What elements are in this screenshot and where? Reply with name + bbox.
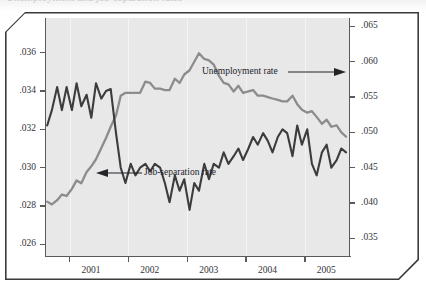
axis-left-label-.026: .026 <box>8 238 36 248</box>
gridline-2004 <box>246 18 247 256</box>
tick-right-.055 <box>349 96 355 97</box>
tick-right-.045 <box>349 167 355 168</box>
axis-right-label-.035: .035 <box>361 232 378 242</box>
tick-right-.065 <box>349 26 355 27</box>
tick-left-.032 <box>40 129 46 130</box>
axis-left-label-.032: .032 <box>8 123 36 133</box>
axis-x-label-2005: 2005 <box>317 265 336 275</box>
axis-x-label-2002: 2002 <box>140 265 159 275</box>
axis-left-line <box>45 18 46 257</box>
gridline-2003 <box>187 18 188 256</box>
tick-right-.040 <box>349 202 355 203</box>
gridline-2002 <box>128 18 129 256</box>
tick-right-.060 <box>349 61 355 62</box>
axis-right-label-.055: .055 <box>361 91 378 101</box>
axis-right-label-.045: .045 <box>361 162 378 172</box>
tick-x-2002 <box>128 256 129 262</box>
annotation-job-separation-rate: Job-separation rate <box>144 167 216 177</box>
tick-x-2005 <box>304 256 305 262</box>
tick-right-.035 <box>349 238 355 239</box>
clipped-caption-text: Unemployment and job-separation rates <box>6 0 182 3</box>
axis-left-label-.036: .036 <box>8 47 36 57</box>
plot-area <box>46 18 349 256</box>
tick-left-.036 <box>40 52 46 53</box>
tick-x-2003 <box>187 256 188 262</box>
tick-x-2004 <box>245 256 246 262</box>
gridline-2005 <box>305 18 306 256</box>
tick-left-.030 <box>40 167 46 168</box>
axis-left-label-.028: .028 <box>8 200 36 210</box>
axis-right-label-.060: .060 <box>361 56 378 66</box>
annotation-arrow-right-icon <box>288 66 350 78</box>
axis-x-label-2004: 2004 <box>258 265 277 275</box>
tick-left-.028 <box>40 205 46 206</box>
tick-x-2001 <box>69 256 70 262</box>
gridline-2001 <box>70 18 71 256</box>
axis-right-label-.065: .065 <box>361 20 378 30</box>
tick-left-.026 <box>40 244 46 245</box>
annotation-arrow-left-icon <box>96 167 144 179</box>
axis-x-label-2001: 2001 <box>82 265 101 275</box>
axis-right-label-.050: .050 <box>361 126 378 136</box>
axis-right-line <box>349 18 350 257</box>
clipped-caption-strip: Unemployment and job-separation rates <box>0 0 426 11</box>
axis-x-label-2003: 2003 <box>199 265 218 275</box>
tick-right-.050 <box>349 132 355 133</box>
axis-left-label-.030: .030 <box>8 162 36 172</box>
figure-container: Unemployment and job-separation rates .0… <box>0 0 426 293</box>
tick-left-.034 <box>40 90 46 91</box>
axis-right-label-.040: .040 <box>361 197 378 207</box>
annotation-unemployment-rate: Unemployment rate <box>202 66 278 76</box>
axis-left-label-.034: .034 <box>8 85 36 95</box>
